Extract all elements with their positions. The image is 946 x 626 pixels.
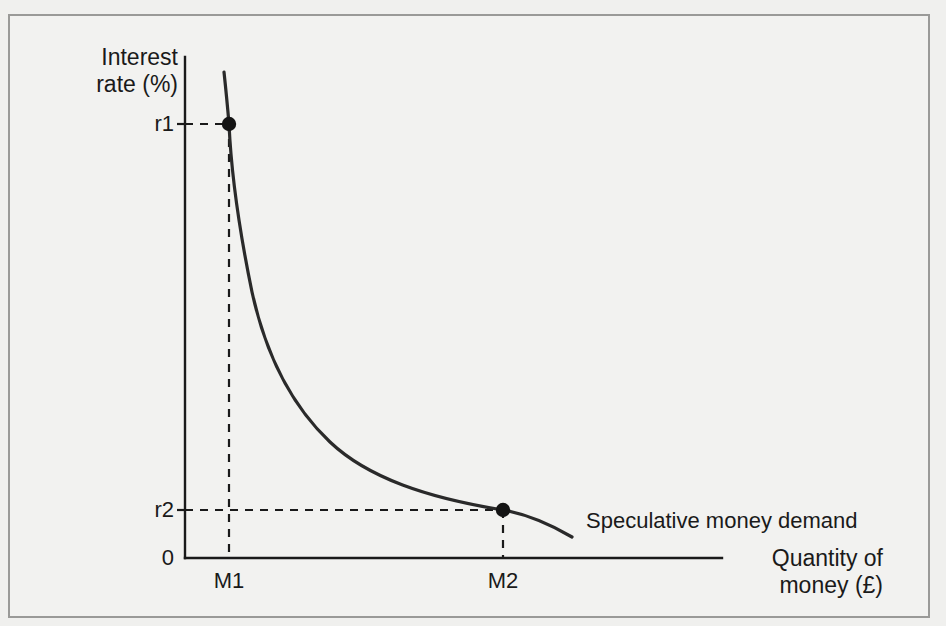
speculative-money-demand-curve (224, 72, 572, 537)
x-axis-title: Quantity of money (£) (733, 545, 883, 598)
data-point-r2-m2 (496, 503, 510, 517)
figure-page: Interest rate (%) Quantity of money (£) … (0, 0, 946, 626)
origin-label: 0 (146, 545, 174, 571)
x-tick-label-m1: M1 (199, 568, 259, 594)
y-tick-label-r2: r2 (140, 497, 174, 523)
y-axis-title: Interest rate (%) (96, 44, 178, 97)
curve-annotation-label: Speculative money demand (586, 508, 858, 534)
data-point-r1-m1 (222, 117, 236, 131)
y-tick-label-r1: r1 (140, 111, 174, 137)
x-tick-label-m2: M2 (473, 568, 533, 594)
